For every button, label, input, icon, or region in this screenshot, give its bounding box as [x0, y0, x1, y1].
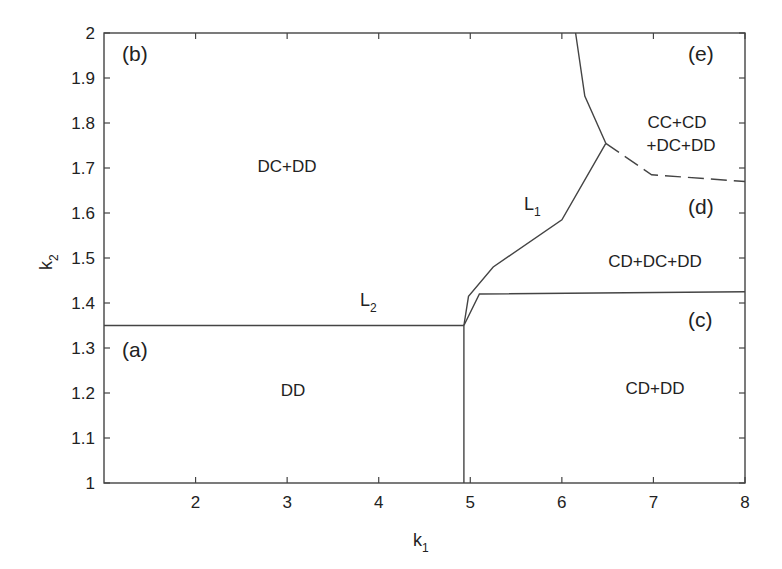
x-tick-label: 5: [466, 493, 475, 512]
panel-label-c: (c): [688, 308, 713, 331]
y-tick-label: 2: [86, 24, 95, 43]
panel-label-e: (e): [688, 42, 714, 65]
y-tick-label: 1.1: [71, 429, 95, 448]
y-tick-label: 1.6: [71, 204, 95, 223]
region-label-cd-dd: CD+DD: [625, 379, 684, 398]
x-tick-label: 7: [649, 493, 658, 512]
x-tick-label: 4: [374, 493, 383, 512]
y-axis-label: k2: [36, 254, 61, 270]
x-tick-label: 2: [191, 493, 200, 512]
panel-label-a: (a): [122, 338, 148, 361]
curve-l1: [464, 143, 606, 325]
x-tick-label: 6: [557, 493, 566, 512]
panel-label-d: (d): [688, 195, 714, 218]
y-tick-label: 1: [86, 474, 95, 493]
x-tick-label: 3: [282, 493, 291, 512]
region-label-dc-dd-2: +DC+DD: [647, 136, 716, 155]
curve-label-l2: L2: [360, 290, 377, 315]
region-label-cd-dc-dd: CD+DC+DD: [608, 252, 702, 271]
x-axis-label: k1: [413, 530, 429, 555]
x-axis-ticks: 2345678: [191, 33, 750, 512]
y-tick-label: 1.5: [71, 249, 95, 268]
region-label-cc-cd: CC+CD: [647, 113, 706, 132]
y-tick-label: 1.7: [71, 159, 95, 178]
y-tick-label: 1.4: [71, 294, 95, 313]
x-tick-label: 8: [740, 493, 749, 512]
curve-label-l1: L1: [524, 194, 541, 219]
phase-diagram-chart: 2345678 11.11.21.31.41.51.61.71.81.92 (a…: [0, 0, 782, 569]
y-tick-label: 1.9: [71, 69, 95, 88]
y-tick-label: 1.2: [71, 384, 95, 403]
region-label-dc-dd: DC+DD: [257, 157, 316, 176]
y-tick-label: 1.8: [71, 114, 95, 133]
panel-label-b: (b): [122, 42, 148, 65]
region-label-dd: DD: [281, 381, 306, 400]
curve-e-b-boundary: [576, 33, 606, 143]
y-tick-label: 1.3: [71, 339, 95, 358]
